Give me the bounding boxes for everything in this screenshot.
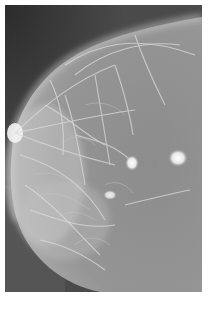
mammogram-graphic [5,5,202,292]
mammogram-image [5,5,202,292]
